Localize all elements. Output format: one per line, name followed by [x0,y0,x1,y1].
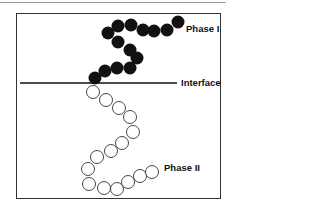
filled-bead [111,62,124,75]
open-bead [87,86,100,99]
open-bead [100,94,113,107]
phase2-chain [82,86,159,196]
open-bead [98,182,111,195]
open-bead [124,111,137,124]
filled-bead [124,62,137,75]
open-bead [113,102,126,115]
phase2-label: Phase II [164,162,200,173]
interface-label: Interface [181,77,221,88]
filled-bead [161,24,174,37]
filled-bead [172,16,185,29]
phase1-chain [89,16,185,85]
open-bead [127,126,140,139]
open-bead [82,163,95,176]
filled-bead [102,27,115,40]
filled-bead [125,19,138,32]
filled-bead [137,24,150,37]
open-bead [122,176,135,189]
open-bead [91,151,104,164]
filled-bead [112,36,125,49]
filled-bead [89,72,102,85]
open-bead [134,170,147,183]
filled-bead [148,25,161,38]
open-bead [83,178,96,191]
open-bead [105,145,118,158]
open-bead [116,137,129,150]
phase1-label: Phase I [186,23,219,34]
open-bead [146,166,159,179]
